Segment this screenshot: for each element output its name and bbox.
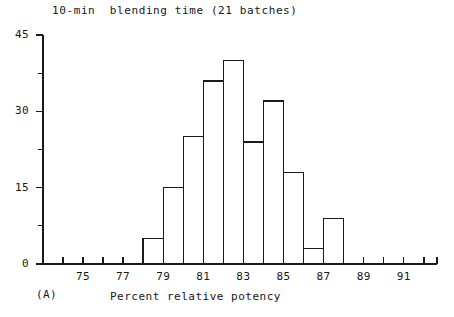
histogram-bar xyxy=(284,172,304,264)
histogram-bar xyxy=(243,142,263,264)
y-axis-tick-label: 30 xyxy=(3,104,29,117)
histogram-bar xyxy=(163,188,183,264)
x-axis-tick-label: 85 xyxy=(272,270,296,283)
x-axis-tick-label: 83 xyxy=(231,270,255,283)
x-axis-tick-label: 87 xyxy=(312,270,336,283)
x-axis-tick-label: 77 xyxy=(111,270,135,283)
x-axis-tick-label: 91 xyxy=(392,270,416,283)
histogram-bar xyxy=(223,60,243,264)
histogram-bar xyxy=(263,101,283,264)
x-axis-tick-label: 81 xyxy=(191,270,215,283)
x-axis-tick-label: 89 xyxy=(352,270,376,283)
y-axis-tick-label: 45 xyxy=(3,28,29,41)
histogram-bar xyxy=(183,137,203,264)
x-axis-tick-label: 75 xyxy=(71,270,95,283)
histogram-figure: 10-min blending time (21 batches) 015304… xyxy=(0,0,454,317)
x-axis-tick-label: 79 xyxy=(151,270,175,283)
bars-group xyxy=(143,60,344,264)
y-axis-tick-label: 15 xyxy=(3,181,29,194)
histogram-bar xyxy=(143,239,163,264)
panel-label: (A) xyxy=(36,288,57,301)
x-axis-title: Percent relative potency xyxy=(110,290,281,303)
y-axis-tick-label: 0 xyxy=(3,257,29,270)
histogram-bar xyxy=(324,218,344,264)
histogram-bar xyxy=(203,81,223,264)
histogram-bar xyxy=(304,249,324,264)
plot-canvas xyxy=(0,0,454,317)
